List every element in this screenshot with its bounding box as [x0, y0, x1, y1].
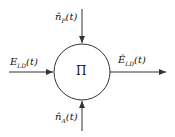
label-arg: (t)	[66, 111, 78, 122]
output-label-right: ÊLD(t)	[118, 55, 146, 67]
label-subscript: LD	[125, 60, 134, 67]
operator-label: Π	[76, 64, 86, 78]
input-label-top: n̂P(t)	[55, 12, 77, 24]
label-arg: (t)	[66, 11, 78, 22]
input-label-bottom: n̂A(t)	[55, 112, 78, 124]
label-arg: (t)	[134, 54, 146, 65]
label-subscript: LD	[17, 62, 26, 69]
input-label-left: ELD(t)	[10, 57, 38, 69]
label-arg: (t)	[26, 56, 38, 67]
